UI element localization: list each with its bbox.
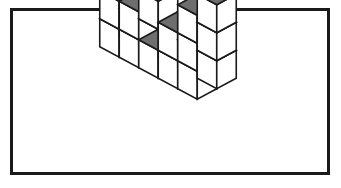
- picture-frame: [10, 8, 330, 175]
- page-root: [0, 0, 341, 188]
- cube: [100, 0, 139, 1]
- picture-frame-inner-edge: [13, 11, 327, 172]
- scan-artifact-speck: [110, 0, 118, 3]
